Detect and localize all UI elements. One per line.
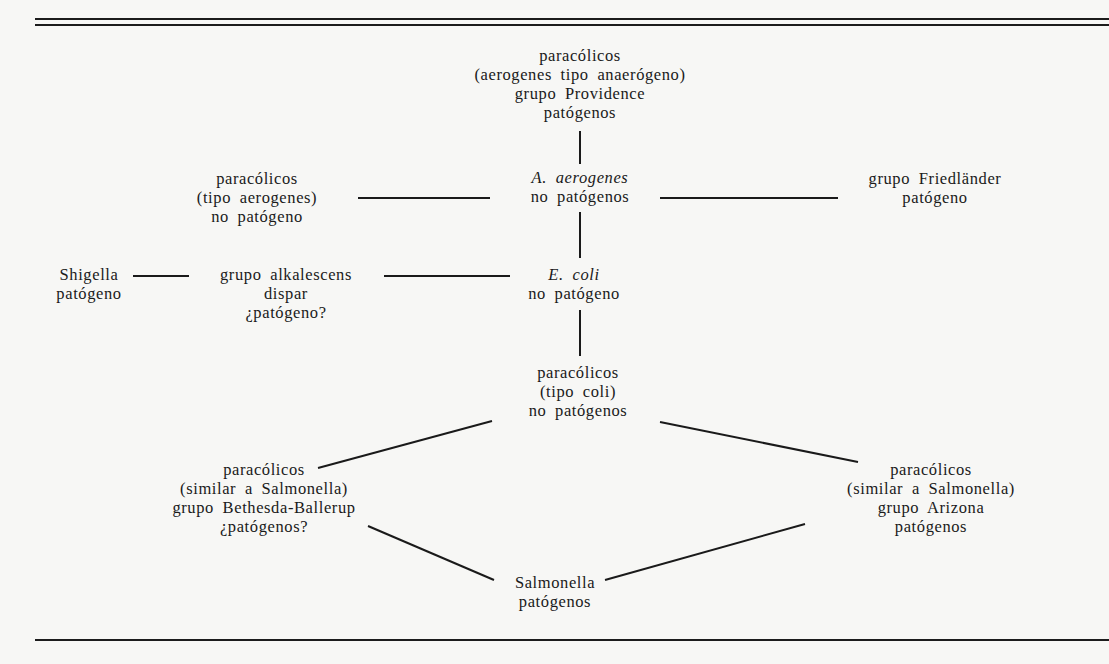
node-line: paracólicos — [529, 363, 628, 382]
node-line: no patógenos — [529, 401, 628, 420]
node-line: (aerogenes tipo anaerógeno) — [474, 65, 685, 84]
node-shigella: Shigella patógeno — [56, 265, 121, 303]
node-line: patógenos — [515, 592, 595, 611]
node-line: grupo Bethesda-Ballerup — [172, 498, 355, 517]
node-aerogenes: A. aerogenes no patógenos — [531, 168, 630, 206]
node-line: paracólicos — [172, 460, 355, 479]
node-species-name: E. coli — [528, 265, 620, 284]
node-line: (tipo aerogenes) — [197, 188, 317, 207]
node-providence: paracólicos (aerogenes tipo anaerógeno) … — [474, 46, 685, 122]
edge-bethesda-salmonella — [368, 526, 494, 580]
node-line: patógenos — [847, 517, 1015, 536]
node-salmonella: Salmonella patógenos — [515, 573, 595, 611]
node-line: paracólicos — [474, 46, 685, 65]
node-line: patógenos — [474, 103, 685, 122]
node-line: (similar a Salmonella) — [172, 479, 355, 498]
node-ecoli: E. coli no patógeno — [528, 265, 620, 303]
node-line: (tipo coli) — [529, 382, 628, 401]
node-line: Shigella — [56, 265, 121, 284]
node-line: grupo Arizona — [847, 498, 1015, 517]
node-status: no patógeno — [528, 284, 620, 303]
node-line: ¿patógenos? — [172, 517, 355, 536]
node-line: grupo Providence — [474, 84, 685, 103]
edge-arizona-salmonella — [605, 524, 805, 580]
node-alkalescens: grupo alkalescens dispar ¿patógeno? — [220, 265, 352, 322]
node-friedlander: grupo Friedländer patógeno — [869, 169, 1002, 207]
node-line: paracólicos — [197, 169, 317, 188]
node-line: ¿patógeno? — [220, 303, 352, 322]
node-line: grupo alkalescens — [220, 265, 352, 284]
node-line: patógeno — [869, 188, 1002, 207]
edge-tipo-coli-arizona — [660, 422, 858, 462]
node-tipo-coli: paracólicos (tipo coli) no patógenos — [529, 363, 628, 420]
node-line: paracólicos — [847, 460, 1015, 479]
node-line: dispar — [220, 284, 352, 303]
node-bethesda: paracólicos (similar a Salmonella) grupo… — [172, 460, 355, 536]
node-line: no patógeno — [197, 207, 317, 226]
node-line: grupo Friedländer — [869, 169, 1002, 188]
node-status: no patógenos — [531, 187, 630, 206]
node-line: (similar a Salmonella) — [847, 479, 1015, 498]
node-line: Salmonella — [515, 573, 595, 592]
node-line: patógeno — [56, 284, 121, 303]
node-arizona: paracólicos (similar a Salmonella) grupo… — [847, 460, 1015, 536]
node-tipo-aerogenes: paracólicos (tipo aerogenes) no patógeno — [197, 169, 317, 226]
node-species-name: A. aerogenes — [531, 168, 630, 187]
